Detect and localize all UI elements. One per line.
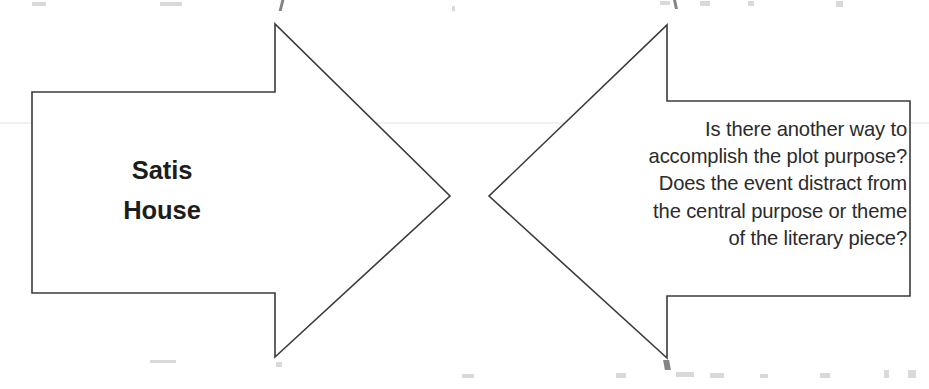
scan-artifact-14 [616,373,626,378]
right-arrow-label-line-1: Is there another way to [596,116,907,143]
scan-artifact-15 [676,372,694,377]
right-arrow-label-line-4: the central purpose or theme [596,198,907,225]
scan-artifact-18 [820,373,830,378]
right-arrow-label: Is there another way to accomplish the p… [596,116,907,252]
scan-artifact-20 [908,370,916,378]
left-arrow-label-line-2: House [40,190,284,230]
scan-artifact-12 [150,360,176,363]
left-arrow-label: Satis House [40,150,284,230]
left-arrow-label-line-1: Satis [40,150,284,190]
scan-artifact-4 [160,2,182,6]
scan-artifact-5 [452,6,455,11]
scan-artifact-7 [700,1,710,6]
right-arrow-label-line-5: of the literary piece? [596,225,907,252]
right-arrow-label-line-2: accomplish the plot purpose? [596,143,907,170]
diagram-canvas: Satis House Is there another way to acco… [0,0,929,389]
scan-artifact-16 [710,373,724,378]
scan-artifact-6 [660,1,670,5]
scan-artifact-17 [760,374,768,378]
scan-artifact-9 [836,1,843,7]
right-arrow-label-line-3: Does the event distract from [596,170,907,197]
scan-artifact-8 [748,1,754,6]
scan-artifact-3 [32,2,46,6]
scan-artifact-13 [462,374,474,378]
scan-artifact-11 [276,362,282,367]
scan-artifact-19 [884,370,889,378]
